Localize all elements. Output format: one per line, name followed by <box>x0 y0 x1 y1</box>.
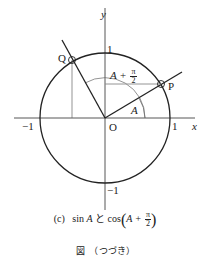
ray-oq <box>62 40 105 118</box>
caption-sin: sin <box>72 213 84 224</box>
x-tick-1: 1 <box>172 121 178 132</box>
point-p-label: P <box>168 81 174 92</box>
y-tick-1: 1 <box>107 44 113 55</box>
angle-large-frac-den: 2 <box>131 77 135 85</box>
y-tick-neg1: −1 <box>107 185 119 196</box>
caption-close-paren: ) <box>151 211 156 228</box>
x-tick-neg1: −1 <box>22 121 34 132</box>
caption-conj: と <box>95 213 105 224</box>
figure-caption: (c) sin A と cos(A + π 2 ) <box>0 210 210 229</box>
origin-label: O <box>109 122 117 133</box>
caption-tag: (c) <box>54 213 65 224</box>
caption-frac-den: 2 <box>146 220 150 228</box>
figure-subtitle: 図 （つづき） <box>0 244 210 257</box>
caption-inner-prefix: A + <box>126 213 141 224</box>
angle-a-label: A <box>131 105 138 116</box>
angle-a-plus-half-pi-label: A + π 2 <box>110 68 137 85</box>
point-q-label: Q <box>58 53 66 64</box>
caption-var: A <box>86 213 92 224</box>
x-axis-label: x <box>192 121 197 132</box>
angle-large-fraction: π 2 <box>130 68 136 85</box>
angle-large-prefix: A + <box>110 69 127 81</box>
caption-cos: cos <box>108 213 121 224</box>
y-axis-label: y <box>101 9 106 20</box>
